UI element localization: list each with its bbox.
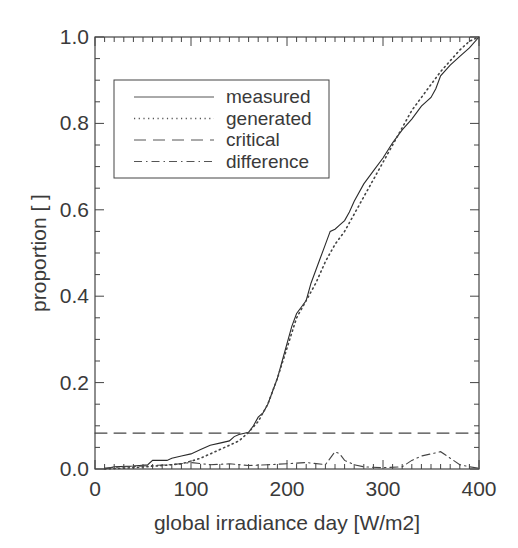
x-tick-label: 0 (89, 477, 101, 500)
y-tick-labels: 0.00.20.40.60.81.0 (60, 25, 90, 480)
x-tick-label: 200 (269, 477, 304, 500)
y-tick-label: 0.2 (60, 371, 89, 394)
legend-label-measured: measured (226, 86, 311, 107)
legend-label-difference: difference (226, 151, 309, 172)
y-tick-label: 0.4 (60, 284, 90, 307)
legend-label-generated: generated (226, 108, 312, 129)
x-tick-labels: 0100200300400 (89, 477, 496, 500)
x-tick-label: 300 (365, 477, 400, 500)
chart-figure: 0.00.20.40.60.81.0 0100200300400 global … (0, 0, 518, 548)
x-tick-label: 400 (461, 477, 496, 500)
y-axis-label: proportion [ ] (27, 194, 50, 312)
x-tick-label: 100 (173, 477, 208, 500)
y-tick-label: 0.6 (60, 198, 89, 221)
legend-label-critical: critical (226, 129, 280, 150)
legend: measuredgeneratedcriticaldifference (114, 80, 329, 178)
x-axis-label: global irradiance day [W/m2] (154, 511, 420, 534)
y-tick-label: 0.8 (60, 111, 89, 134)
y-tick-label: 0.0 (60, 457, 89, 480)
y-tick-label: 1.0 (60, 25, 89, 48)
